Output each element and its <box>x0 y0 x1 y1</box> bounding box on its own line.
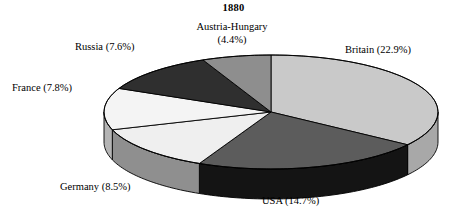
slice-label-russia: Russia (7.6%) <box>75 41 135 54</box>
slice-label-britain: Britain (22.9%) <box>345 44 411 57</box>
pie-chart-figure: 1880 Austria-Hungary (4.4%) Britain (22.… <box>0 0 467 221</box>
slice-label-austria-hungary-line1: Austria-Hungary <box>196 21 267 32</box>
slice-label-usa: USA (14.7%) <box>262 195 319 208</box>
slice-label-austria-hungary-line2: (4.4%) <box>218 34 247 45</box>
slice-label-germany: Germany (8.5%) <box>60 181 131 194</box>
slice-label-austria-hungary: Austria-Hungary (4.4%) <box>176 21 288 46</box>
slice-label-france: France (7.8%) <box>12 82 72 95</box>
